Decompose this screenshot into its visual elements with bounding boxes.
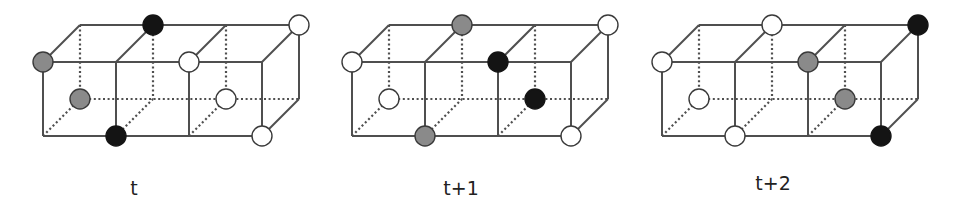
- particle-gray: [835, 89, 855, 109]
- particle-white: [342, 52, 362, 72]
- particle-gray: [70, 89, 90, 109]
- particle-white: [689, 89, 709, 109]
- lattice-panel-1: [342, 15, 618, 146]
- particle-white: [725, 126, 745, 146]
- particle-white: [179, 52, 199, 72]
- particle-black: [908, 15, 928, 35]
- particle-white: [598, 15, 618, 35]
- particle-black: [488, 52, 508, 72]
- particle-black: [106, 126, 126, 146]
- panel-label-t: t: [130, 177, 137, 199]
- lattice-panel-2: [652, 15, 928, 146]
- particle-white: [289, 15, 309, 35]
- particle-white: [216, 89, 236, 109]
- particle-black: [143, 15, 163, 35]
- particle-white: [379, 89, 399, 109]
- panel-label-t-plus-2: t+2: [755, 172, 790, 194]
- particle-white: [561, 126, 581, 146]
- particle-gray: [33, 52, 53, 72]
- particle-black: [525, 89, 545, 109]
- particle-gray: [415, 126, 435, 146]
- particle-gray: [798, 52, 818, 72]
- particle-white: [762, 15, 782, 35]
- lattice-panel-0: [33, 15, 309, 146]
- particle-white: [652, 52, 672, 72]
- panel-label-t-plus-1: t+1: [443, 177, 478, 199]
- particle-black: [871, 126, 891, 146]
- particle-gray: [452, 15, 472, 35]
- particle-white: [252, 126, 272, 146]
